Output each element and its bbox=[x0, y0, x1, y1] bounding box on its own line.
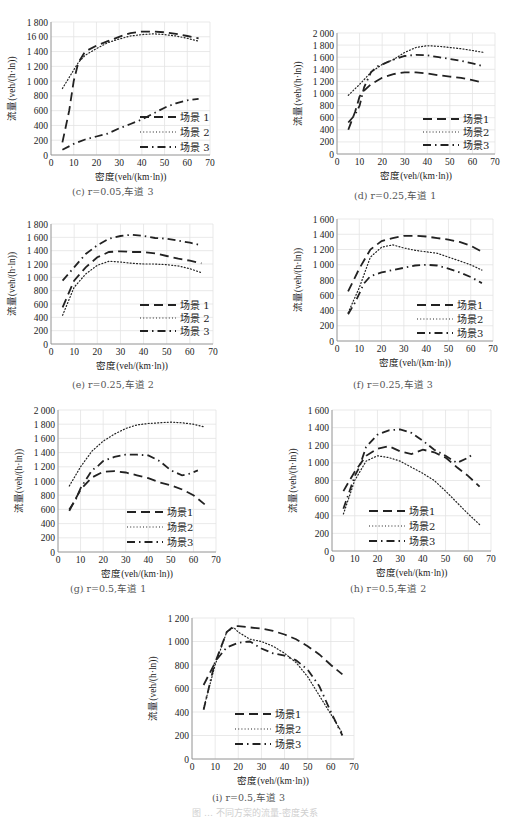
y-tick-label: 1 000 bbox=[27, 273, 49, 283]
x-tick-label: 0 bbox=[330, 554, 335, 564]
y-tick-label: 800 bbox=[315, 476, 330, 486]
y-tick-label: 800 bbox=[320, 276, 335, 286]
legend-label: 场景3 bbox=[409, 535, 435, 547]
x-tick-label: 40 bbox=[418, 554, 428, 564]
legend-label: 场景1 bbox=[275, 708, 301, 720]
x-tick-label: 70 bbox=[205, 158, 215, 168]
y-tick-label: 1 200 bbox=[27, 62, 49, 72]
y-tick-label: 400 bbox=[34, 121, 49, 131]
y-tick-label: 200 bbox=[320, 137, 335, 147]
y-tick-label: 400 bbox=[34, 313, 49, 323]
y-axis-label: 流量(veh/(h·ln)) bbox=[6, 56, 18, 120]
y-tick-label: 1 400 bbox=[34, 448, 56, 458]
y-tick-label: 1 600 bbox=[27, 233, 49, 243]
y-tick-label: 0 bbox=[50, 548, 55, 558]
legend-label: 场景1 bbox=[409, 505, 435, 517]
legend-label: 场景3 bbox=[167, 536, 193, 548]
legend-label: 场景1 bbox=[463, 113, 489, 125]
legend-label: 场景 1 bbox=[180, 299, 210, 311]
y-tick-label: 600 bbox=[320, 291, 335, 301]
series-line-2 bbox=[62, 34, 198, 89]
y-tick-label: 0 bbox=[324, 547, 329, 557]
y-tick-label: 400 bbox=[315, 511, 330, 521]
legend-label: 场景1 bbox=[167, 506, 193, 518]
y-tick-label: 200 bbox=[41, 533, 56, 543]
y-tick-label: 1 400 bbox=[27, 246, 49, 256]
x-tick-label: 70 bbox=[349, 762, 359, 772]
x-tick-label: 20 bbox=[92, 158, 102, 168]
x-tick-label: 50 bbox=[441, 554, 451, 564]
y-tick-label: 600 bbox=[315, 494, 330, 504]
legend-label: 场景2 bbox=[457, 313, 483, 325]
x-tick-label: 20 bbox=[377, 344, 387, 354]
x-tick-label: 40 bbox=[421, 344, 431, 354]
series-line-1 bbox=[348, 236, 482, 292]
series-line-1 bbox=[69, 471, 204, 511]
x-tick-label: 70 bbox=[488, 344, 498, 354]
x-tick-label: 60 bbox=[464, 554, 474, 564]
chart-panel-i: 02004006008001 0001 200010203040506070密度… bbox=[130, 604, 385, 809]
x-tick-label: 30 bbox=[257, 762, 267, 772]
y-tick-label: 200 bbox=[320, 321, 335, 331]
legend-label: 场景2 bbox=[275, 723, 301, 735]
y-tick-label: 600 bbox=[34, 106, 49, 116]
y-tick-label: 1 000 bbox=[308, 458, 330, 468]
legend-label: 场景 2 bbox=[180, 126, 210, 138]
x-axis-label: 密度(veh/(km·ln)) bbox=[380, 170, 452, 182]
x-tick-label: 30 bbox=[114, 158, 124, 168]
y-tick-label: 1 400 bbox=[308, 423, 330, 433]
x-tick-label: 60 bbox=[326, 762, 336, 772]
y-tick-label: 1 600 bbox=[308, 406, 330, 416]
y-tick-label: 1 600 bbox=[34, 434, 56, 444]
y-tick-label: 0 bbox=[43, 151, 48, 161]
x-axis-label: 密度(veh/(km·ln)) bbox=[379, 357, 451, 369]
chart-caption: (d) r=0.25,车道 1 bbox=[354, 188, 436, 202]
x-axis-label: 密度(veh/(km·ln)) bbox=[101, 568, 173, 580]
chart-panel-d: 02004006008001 0001 2001 4001 6001 8002 … bbox=[255, 0, 510, 205]
legend-label: 场景 3 bbox=[180, 325, 210, 337]
legend-label: 场景 1 bbox=[180, 111, 210, 123]
y-axis-label: 流量(veh/(h·ln)) bbox=[287, 448, 299, 512]
x-tick-label: 20 bbox=[373, 554, 383, 564]
y-tick-label: 1 200 bbox=[313, 77, 335, 87]
x-tick-label: 60 bbox=[466, 344, 476, 354]
x-tick-label: 40 bbox=[280, 762, 290, 772]
x-tick-label: 40 bbox=[137, 158, 147, 168]
y-tick-label: 800 bbox=[34, 286, 49, 296]
x-tick-label: 60 bbox=[183, 158, 193, 168]
x-tick-label: 0 bbox=[56, 555, 61, 565]
legend-label: 场景2 bbox=[167, 521, 193, 533]
y-tick-label: 600 bbox=[34, 300, 49, 310]
x-tick-label: 70 bbox=[211, 555, 221, 565]
x-tick-label: 60 bbox=[468, 157, 478, 167]
y-tick-label: 1 000 bbox=[313, 89, 335, 99]
x-tick-label: 30 bbox=[399, 344, 409, 354]
x-tick-label: 50 bbox=[162, 347, 172, 357]
x-tick-label: 20 bbox=[98, 555, 108, 565]
series-line-1 bbox=[204, 626, 343, 685]
x-tick-label: 10 bbox=[69, 347, 79, 357]
x-axis-label: 密度(veh/(km·ln)) bbox=[95, 171, 167, 183]
x-tick-label: 0 bbox=[335, 344, 340, 354]
y-tick-label: 200 bbox=[34, 136, 49, 146]
y-tick-label: 1 800 bbox=[27, 18, 49, 28]
series-line-2 bbox=[348, 46, 483, 96]
x-tick-label: 50 bbox=[160, 158, 170, 168]
chart-g: 02004006008001 0001 2001 4001 6001 8002 … bbox=[0, 403, 255, 608]
y-tick-label: 400 bbox=[175, 708, 190, 718]
chart-d: 02004006008001 0001 2001 4001 6001 8002 … bbox=[255, 0, 510, 205]
chart-caption: (i) r=0.5,车道 3 bbox=[212, 790, 285, 804]
y-tick-label: 1 200 bbox=[27, 260, 49, 270]
y-tick-label: 1 400 bbox=[27, 47, 49, 57]
series-line-3 bbox=[348, 55, 483, 123]
y-tick-label: 400 bbox=[320, 125, 335, 135]
y-tick-label: 1 200 bbox=[313, 245, 335, 255]
y-tick-label: 600 bbox=[320, 113, 335, 123]
series-line-3 bbox=[62, 99, 198, 150]
x-tick-label: 30 bbox=[116, 347, 126, 357]
chart-h: 02004006008001 0001 2001 4001 6000102030… bbox=[255, 403, 510, 608]
y-tick-label: 1 600 bbox=[313, 215, 335, 225]
y-tick-label: 1 200 bbox=[168, 614, 190, 624]
x-tick-label: 10 bbox=[350, 554, 360, 564]
chart-panel-f: 02004006008001 0001 2001 4001 6000102030… bbox=[255, 205, 510, 410]
